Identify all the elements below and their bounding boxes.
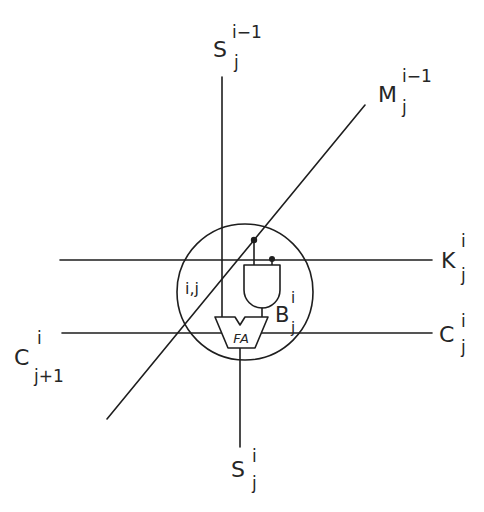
s-input-label: S i−1 j [213,22,262,72]
k-label-sub: j [460,265,466,285]
full-adder-label: FA [233,331,249,346]
b-label-base: B [275,303,289,327]
s-input-label-sup: i−1 [232,22,262,42]
k-label-base: K [441,248,456,273]
m-label-base: M [378,82,397,107]
carry-out-label-base: C [439,322,454,347]
carry-out-label: C i j [439,311,466,357]
s-input-label-sub: j [233,52,239,72]
m-diagonal-wire [107,105,365,419]
carry-in-label-sub: j+1 [33,366,64,386]
carry-in-label: C i j+1 [14,328,64,386]
systolic-cell-diagram: FA i,j B i j S i−1 j M i−1 j K i j C i j… [0,0,484,512]
carry-out-label-sup: i [461,311,466,331]
s-output-label-sub: j [251,473,257,493]
k-tap-dot [269,256,275,262]
k-label-sup: i [461,231,466,251]
and-gate [244,265,280,308]
b-label-sup: i [291,289,295,307]
carry-out-label-sub: j [460,337,466,357]
cell-index-label: i,j [185,279,199,298]
s-input-label-base: S [213,37,227,62]
k-label: K i j [441,231,466,285]
m-label-sup: i−1 [402,66,432,86]
s-output-label-sup: i [252,446,257,466]
s-output-label-base: S [231,457,245,482]
carry-in-label-sup: i [37,328,42,348]
m-label: M i−1 j [378,66,432,117]
m-label-sub: j [401,97,407,117]
s-output-label: S i j [231,446,257,493]
carry-in-label-base: C [14,345,29,370]
b-label-sub: j [290,319,295,337]
m-tap-dot [251,237,257,243]
